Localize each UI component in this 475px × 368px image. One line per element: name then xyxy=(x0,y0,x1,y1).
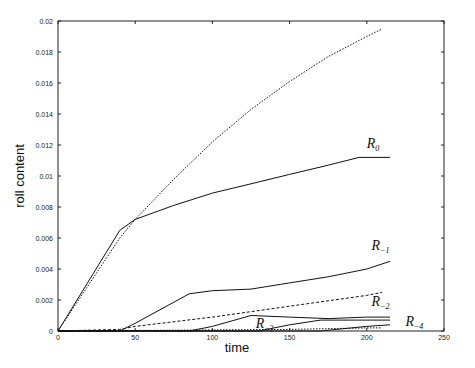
x-tick-label: 0 xyxy=(56,334,60,341)
curve-labels: R0R−1R−2R−3R−4 xyxy=(255,136,424,333)
curve-r-1-dashed- xyxy=(58,292,382,331)
x-tick-label: 50 xyxy=(131,334,139,341)
y-tick-label: 0.016 xyxy=(35,80,53,87)
curve-r-0-dotted- xyxy=(58,29,382,331)
x-tick-label: 200 xyxy=(361,334,373,341)
curve-label: R−4 xyxy=(404,314,423,331)
curve-label: R−3 xyxy=(255,316,274,333)
y-tick-label: 0.002 xyxy=(35,297,53,304)
y-tick-label: 0.008 xyxy=(35,204,53,211)
y-tick-label: 0 xyxy=(49,328,53,335)
x-tick-label: 100 xyxy=(207,334,219,341)
curve-label: R−1 xyxy=(370,238,389,255)
y-tick-label: 0.014 xyxy=(35,111,53,118)
curves xyxy=(58,29,390,331)
curve-label: R0 xyxy=(366,136,380,153)
curve-r-0 xyxy=(58,157,390,331)
curve-label: R−2 xyxy=(370,294,389,311)
x-axis-title: time xyxy=(225,340,250,355)
y-tick-label: 0.02 xyxy=(39,18,53,25)
y-tick-label: 0.012 xyxy=(35,142,53,149)
roll-content-chart: 00.0020.0040.0060.0080.010.0120.0140.016… xyxy=(0,0,475,368)
y-axis-ticks: 00.0020.0040.0060.0080.010.0120.0140.016… xyxy=(35,18,444,335)
x-tick-label: 150 xyxy=(284,334,296,341)
x-tick-label: 250 xyxy=(438,334,450,341)
y-tick-label: 0.004 xyxy=(35,266,53,273)
y-tick-label: 0.01 xyxy=(39,173,53,180)
y-tick-label: 0.018 xyxy=(35,49,53,56)
y-tick-label: 0.006 xyxy=(35,235,53,242)
y-axis-title: roll content xyxy=(12,144,27,208)
x-axis-ticks: 050100150200250 xyxy=(56,21,450,341)
plot-frame xyxy=(58,21,444,331)
